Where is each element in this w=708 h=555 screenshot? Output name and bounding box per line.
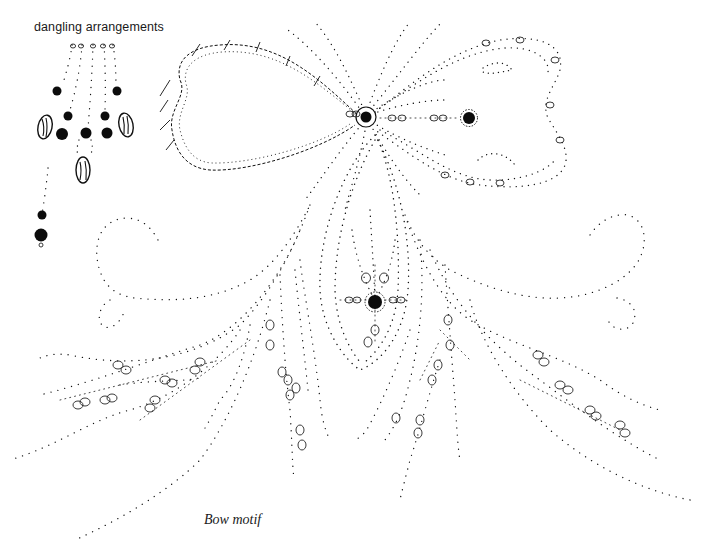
right-scroll	[405, 215, 644, 329]
bow-right-loop	[375, 37, 566, 187]
illustration-canvas: dangling arrangements Bow motif	[0, 0, 708, 555]
bow-left-loop	[160, 40, 360, 170]
bow-radiating-strands	[285, 22, 445, 210]
teardrop-bead	[117, 112, 136, 138]
left-scroll	[97, 205, 310, 327]
right-fronds	[352, 215, 690, 500]
teardrop-bead	[36, 114, 55, 140]
dangling-arrangements	[35, 44, 136, 247]
bead-pattern-drawing	[0, 0, 708, 555]
teardrop-bead	[76, 157, 90, 183]
teardrop-pendant	[320, 135, 410, 370]
center-jewel	[346, 107, 376, 127]
left-fronds	[10, 205, 330, 540]
